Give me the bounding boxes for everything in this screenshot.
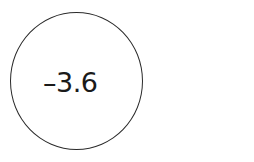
node-value-label: –3.6: [43, 66, 95, 100]
diagram-canvas: –3.6: [0, 0, 254, 162]
